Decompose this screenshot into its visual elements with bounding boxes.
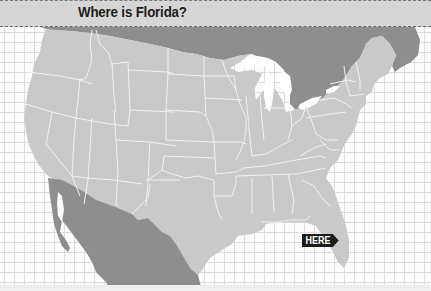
title-bar: Where is Florida? <box>0 0 431 27</box>
us-map <box>0 0 431 291</box>
here-marker-label: HERE <box>302 234 339 247</box>
page-title: Where is Florida? <box>78 4 187 20</box>
bottom-edge <box>0 285 431 291</box>
